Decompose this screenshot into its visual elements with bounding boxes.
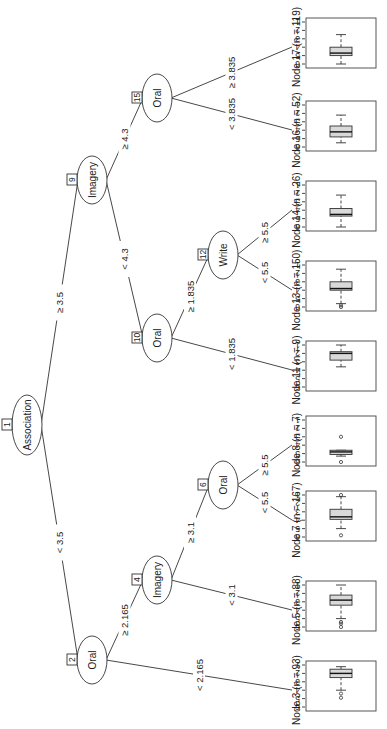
boxplot-frame: [306, 416, 376, 466]
edge-label: ≥ 5.5: [259, 222, 270, 243]
terminal-node-17: Node 17 (n = 119)654321: [291, 7, 376, 87]
edge-9-15: ≥ 4.3: [106, 98, 143, 180]
edge-6-7: < 5.5: [237, 485, 292, 521]
terminal-node-3: Node 3 (n = 93)654321: [291, 655, 376, 725]
node-id: 2: [67, 657, 77, 662]
terminal-node-14: Node 14 (n = 26)654321: [291, 172, 376, 247]
inner-node-12: Write12: [198, 231, 238, 279]
node-id: 15: [132, 93, 142, 103]
terminal-node-11: Node 11 (n = 9)654321: [291, 335, 376, 404]
inner-node-6: Oral6: [198, 461, 238, 509]
node-variable-label: Oral: [152, 89, 163, 108]
edge-label: ≥ 1.835: [185, 281, 196, 313]
axis-tick: 1: [295, 415, 300, 425]
edge-label: < 1.835: [226, 338, 237, 370]
edge-1-2: < 3.5: [41, 425, 78, 660]
node-id: 9: [67, 177, 77, 182]
tree-diagram: < 3.5≥ 3.5< 2.165≥ 2.165< 3.1≥ 3.1< 5.5≥…: [0, 0, 387, 729]
edge-label: ≥ 3.1: [185, 522, 196, 543]
node-variable-label: Oral: [87, 651, 98, 670]
inner-node-15: Oral15: [132, 74, 172, 122]
edge-2-4: ≥ 2.165: [106, 580, 143, 660]
axis-tick: 1: [295, 580, 300, 590]
edge-15-17: ≥ 3.835: [171, 47, 292, 98]
node-variable-label: Association: [22, 399, 33, 450]
edge-label: < 3.5: [54, 532, 65, 553]
node-variable-label: Oral: [218, 476, 229, 495]
node-id: 12: [198, 250, 208, 260]
node-id: 1: [2, 422, 12, 427]
inner-node-4: Imagery4: [132, 556, 172, 604]
terminal-node-16: Node 16 (n = 52)654321: [291, 92, 376, 167]
edge-10-12: ≥ 1.835: [171, 255, 209, 338]
inner-nodes-layer: Association1Oral2Imagery4Oral6Imagery9Or…: [2, 74, 238, 684]
node-variable-label: Imagery: [87, 162, 98, 198]
node-variable-label: Imagery: [152, 562, 163, 598]
node-id: 10: [132, 333, 142, 343]
axis-tick: 1: [295, 180, 300, 190]
edge-label: < 2.165: [194, 659, 205, 691]
axis-tick: 1: [295, 490, 300, 500]
inner-node-2: Oral2: [67, 636, 107, 684]
edge-label: < 4.3: [119, 248, 130, 269]
edge-label: ≥ 4.3: [119, 128, 130, 149]
boxplot-box: [330, 509, 352, 519]
axis-tick: 1: [295, 17, 300, 27]
edge-4-6: ≥ 3.1: [171, 485, 209, 580]
terminal-node-5: Node 5 (n = 88)654321: [291, 575, 376, 645]
inner-node-9: Imagery9: [67, 156, 107, 204]
terminal-nodes-layer: Node 3 (n = 93)654321Node 5 (n = 88)6543…: [291, 7, 376, 725]
terminal-node-13: Node 13 (n = 150)654321: [291, 250, 376, 331]
edge-label: ≥ 5.5: [259, 454, 270, 475]
edge-6-8: ≥ 5.5: [237, 445, 292, 485]
edge-4-5: < 3.1: [171, 577, 292, 613]
edge-12-14: ≥ 5.5: [237, 210, 292, 255]
node-id: 4: [132, 577, 142, 582]
node-id: 6: [198, 482, 208, 487]
inner-node-1: Association1: [2, 395, 42, 455]
edge-label: < 3.1: [226, 584, 237, 605]
edge-label: < 5.5: [259, 262, 270, 283]
node-variable-label: Oral: [152, 329, 163, 348]
edge-label: ≥ 3.5: [54, 292, 65, 313]
edge-label: < 3.835: [226, 98, 237, 130]
edge-15-16: < 3.835: [171, 96, 292, 132]
node-variable-label: Write: [218, 243, 229, 267]
rotated-figure: < 3.5≥ 3.5< 2.165≥ 2.165< 3.1≥ 3.1< 5.5≥…: [0, 0, 387, 729]
boxplot-box: [330, 47, 352, 55]
axis-tick: 1: [295, 260, 300, 270]
edge-label: ≥ 3.835: [226, 57, 237, 89]
axis-tick: 1: [295, 100, 300, 110]
edge-12-13: < 5.5: [237, 255, 292, 291]
axis-tick: 1: [295, 660, 300, 670]
edge-label: < 5.5: [259, 492, 270, 513]
terminal-node-7: Node 7 (n = 167)654321: [291, 482, 376, 557]
edge-9-10: < 4.3: [106, 180, 143, 338]
edge-2-3: < 2.165: [106, 657, 292, 693]
edge-label: ≥ 2.165: [119, 604, 130, 636]
edge-1-9: ≥ 3.5: [41, 180, 78, 425]
inner-node-10: Oral10: [132, 314, 172, 362]
edge-10-11: < 1.835: [171, 336, 292, 372]
axis-tick: 1: [295, 340, 300, 350]
terminal-node-8: Node 8 (n = 7)654321: [291, 413, 376, 477]
boxplot-frame: [306, 18, 376, 68]
